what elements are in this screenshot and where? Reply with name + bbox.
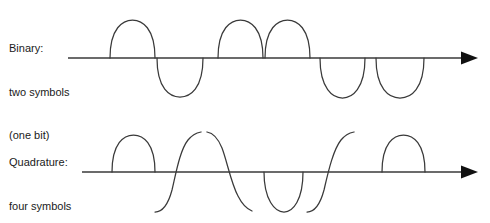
quadrature-segment-6 [382, 135, 425, 172]
binary-lobe-1 [110, 20, 155, 58]
binary-time-axis-arrow-icon [461, 52, 478, 65]
binary-caption-line-2: two symbols [9, 85, 70, 100]
quadrature-time-axis-arrow-icon [461, 166, 478, 179]
binary-lobe-3 [218, 20, 263, 58]
binary-row [68, 20, 478, 98]
binary-caption-line-1: Binary: [9, 41, 70, 56]
quadrature-segment-1 [112, 135, 155, 172]
binary-lobe-6 [376, 58, 424, 98]
quadrature-caption-line-2: four symbols [9, 199, 71, 214]
waveform-canvas [0, 0, 490, 223]
binary-lobe-2 [157, 58, 203, 97]
quadrature-caption: Quadrature: four symbols (two bits) [9, 126, 71, 223]
binary-lobe-5 [320, 58, 365, 98]
quadrature-row [82, 132, 478, 212]
binary-lobe-4 [265, 20, 310, 58]
binary-waveform [110, 20, 424, 98]
quadrature-caption-line-1: Quadrature: [9, 155, 71, 170]
modulation-figure: Binary: two symbols (one bit) Quadrature… [0, 0, 490, 223]
quadrature-segment-4 [264, 172, 303, 212]
